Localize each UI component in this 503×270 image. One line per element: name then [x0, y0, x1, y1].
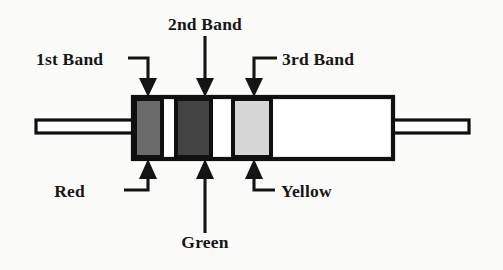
- top-label-texts: 1st Band 2nd Band 3rd Band: [36, 14, 354, 69]
- resistor-diagram: 1st Band 2nd Band 3rd Band Red Green Yel…: [0, 0, 503, 270]
- arrowhead-2nd-band: [196, 78, 214, 97]
- bottom-label-texts: Red Green Yellow: [54, 181, 332, 252]
- left-lead-wire: [36, 120, 136, 133]
- label-red: Red: [54, 181, 85, 201]
- arrowhead-yellow: [245, 159, 263, 179]
- arrowhead-3rd-band: [245, 78, 263, 97]
- right-lead-wire: [391, 120, 469, 133]
- resistor-figure: 1st Band 2nd Band 3rd Band Red Green Yel…: [0, 0, 503, 270]
- label-1st-band: 1st Band: [36, 49, 103, 69]
- band-2-green: [176, 99, 211, 157]
- arrowhead-green: [196, 159, 214, 179]
- label-2nd-band: 2nd Band: [168, 14, 242, 34]
- arrowhead-red: [139, 159, 157, 179]
- bottom-leaders: [124, 159, 275, 233]
- color-bands: [135, 99, 271, 157]
- label-green: Green: [181, 232, 228, 252]
- label-3rd-band: 3rd Band: [282, 49, 354, 69]
- band-3-yellow: [233, 99, 271, 157]
- arrowhead-1st-band: [139, 78, 157, 97]
- label-yellow: Yellow: [281, 181, 332, 201]
- top-leaders: [128, 36, 277, 97]
- band-1-red: [135, 99, 162, 157]
